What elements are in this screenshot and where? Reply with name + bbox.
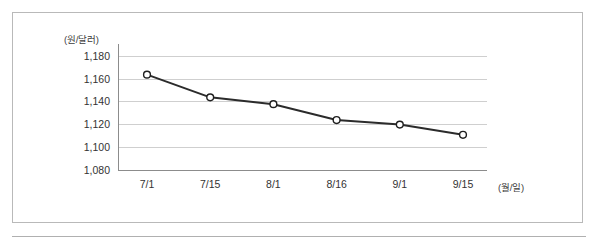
y-axis-tick-label: 1,140 (62, 95, 110, 107)
y-axis-tick-label: 1,160 (62, 73, 110, 85)
x-axis-tick-label: 9/15 (435, 178, 491, 190)
y-axis-tick-label: 1,120 (62, 118, 110, 130)
x-axis-tick-label: 8/1 (245, 178, 301, 190)
y-axis-tick-label: 1,180 (62, 50, 110, 62)
y-axis-unit-label: (원/달러) (64, 32, 99, 46)
y-axis-tick-label: 1,100 (62, 141, 110, 153)
x-axis-tick-label: 8/16 (309, 178, 365, 190)
x-axis-tick-label: 9/1 (372, 178, 428, 190)
x-axis-unit-label: (월/일) (498, 180, 524, 194)
x-axis-tick-label: 7/15 (182, 178, 238, 190)
y-axis-tick-label: 1,080 (62, 164, 110, 176)
x-axis-tick-label: 7/1 (119, 178, 175, 190)
bottom-separator-rule (12, 236, 586, 237)
